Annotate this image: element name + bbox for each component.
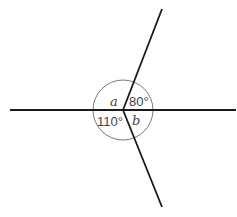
label-110: 110° — [97, 114, 123, 129]
label-80: 80° — [129, 94, 149, 109]
label-b: b — [132, 113, 140, 128]
angle-diagram: a 80° 110° b — [0, 0, 237, 217]
label-a: a — [110, 94, 118, 109]
lower-ray — [123, 110, 162, 207]
